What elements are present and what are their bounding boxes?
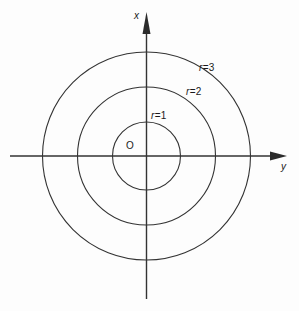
x-axis-label: x	[134, 10, 139, 21]
x-axis-arrowhead	[143, 12, 151, 34]
polar-circles-figure: x y O r=3 r=2 r=1	[0, 0, 299, 311]
radius-label-r1: r=1	[151, 110, 167, 121]
origin-label: O	[126, 140, 134, 151]
radius-value-r2: 2	[196, 86, 202, 97]
radius-label-r2: r=2	[186, 86, 202, 97]
figure-canvas	[0, 0, 299, 311]
radius-value-r1: 1	[161, 110, 167, 121]
radius-value-r3: 3	[209, 62, 215, 73]
y-axis-arrowhead	[270, 152, 287, 161]
y-axis-label: y	[281, 161, 286, 172]
radius-label-r3: r=3	[199, 62, 215, 73]
